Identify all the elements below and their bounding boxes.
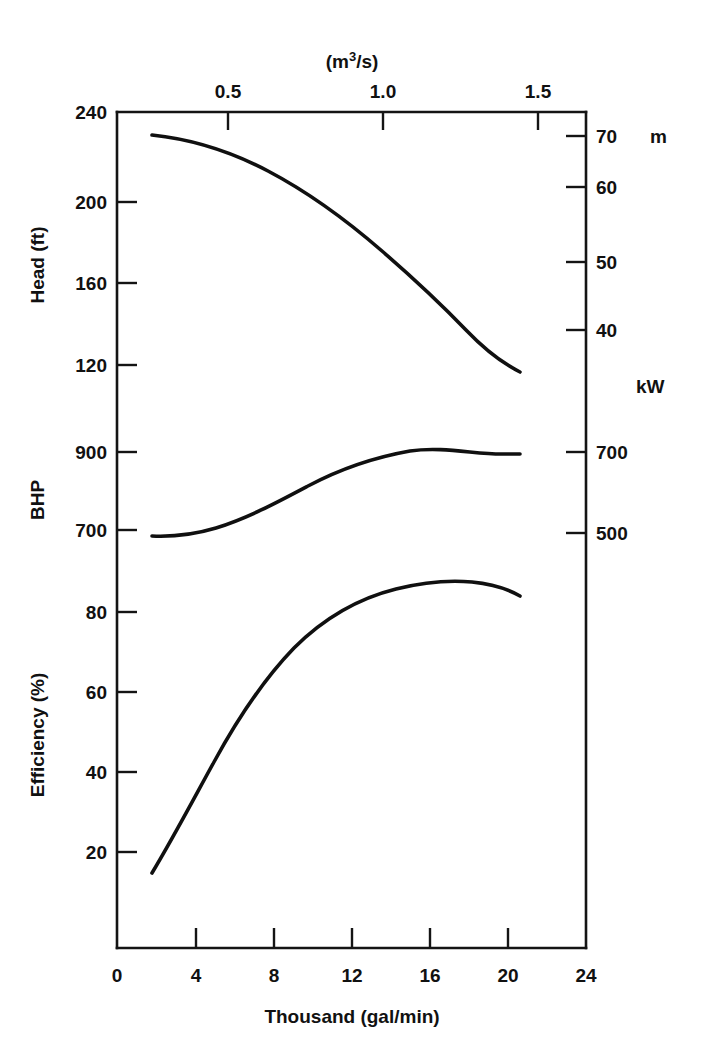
- head-right-tick-label-70: 70: [596, 126, 617, 147]
- x-axis-title: Thousand (gal/min): [264, 1006, 439, 1027]
- bottom-axis-tick-labels: 0 4 8 12 16 20 24: [112, 965, 597, 986]
- head-y-tick-label-200: 200: [75, 192, 107, 213]
- bottom-axis-ticks: [196, 928, 508, 948]
- x-tick-label-3: 12: [341, 965, 362, 986]
- efficiency-left-axis-tick-labels: 80 60 40 20: [86, 602, 107, 863]
- head-curve: [152, 135, 520, 372]
- pump-performance-chart: (m3/s) 0.5 1.0 1.5: [0, 0, 707, 1056]
- x-tick-label-6: 24: [575, 965, 597, 986]
- top-tick-label-1: 1.0: [370, 81, 396, 102]
- bhp-left-axis-tick-labels: 900 700: [75, 442, 107, 541]
- bhp-right-unit-label: kW: [636, 376, 665, 397]
- head-right-tick-label-40: 40: [596, 320, 617, 341]
- bhp-left-axis-ticks: [117, 452, 137, 530]
- efficiency-y-tick-label-20: 20: [86, 842, 107, 863]
- head-left-axis-tick-labels: 240 200 160 120: [75, 102, 107, 376]
- top-tick-label-2: 1.5: [525, 81, 552, 102]
- top-axis-unit-label: (m3/s): [326, 49, 379, 72]
- bhp-right-axis-ticks: [566, 452, 586, 533]
- head-axis-title: Head (ft): [27, 226, 48, 303]
- head-y-tick-label-240: 240: [75, 102, 107, 123]
- bhp-right-tick-label-500: 500: [596, 523, 628, 544]
- head-y-tick-label-120: 120: [75, 355, 107, 376]
- x-tick-label-2: 8: [269, 965, 280, 986]
- head-right-tick-label-50: 50: [596, 252, 617, 273]
- head-left-axis-ticks: [117, 202, 137, 365]
- head-right-tick-label-60: 60: [596, 177, 617, 198]
- efficiency-y-tick-label-60: 60: [86, 682, 107, 703]
- x-tick-label-0: 0: [112, 965, 123, 986]
- bhp-right-axis-tick-labels: 700 500: [596, 442, 628, 544]
- bhp-curve: [152, 449, 520, 536]
- x-tick-label-4: 16: [419, 965, 440, 986]
- top-axis-ticks: [228, 112, 538, 130]
- head-right-axis-ticks: [566, 136, 586, 330]
- x-tick-label-5: 20: [497, 965, 518, 986]
- bhp-right-tick-label-700: 700: [596, 442, 628, 463]
- efficiency-axis-title: Efficiency (%): [27, 673, 48, 798]
- bhp-y-tick-label-900: 900: [75, 442, 107, 463]
- bhp-axis-title: BHP: [27, 480, 48, 520]
- efficiency-y-tick-label-80: 80: [86, 602, 107, 623]
- head-right-unit-label: m: [650, 126, 667, 147]
- x-tick-label-1: 4: [191, 965, 202, 986]
- head-y-tick-label-160: 160: [75, 273, 107, 294]
- bhp-y-tick-label-700: 700: [75, 520, 107, 541]
- head-right-axis-tick-labels: 70 60 50 40: [596, 126, 617, 341]
- chart-canvas: (m3/s) 0.5 1.0 1.5: [0, 0, 707, 1056]
- efficiency-curve: [152, 581, 520, 873]
- efficiency-y-tick-label-40: 40: [86, 762, 107, 783]
- efficiency-left-axis-ticks: [117, 612, 137, 852]
- top-tick-label-0: 0.5: [215, 81, 242, 102]
- top-axis-tick-labels: 0.5 1.0 1.5: [215, 81, 552, 102]
